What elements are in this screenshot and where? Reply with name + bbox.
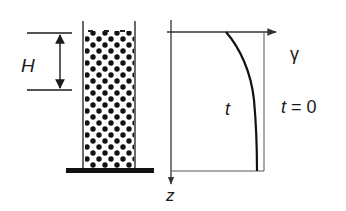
gamma-axis-label: γ xyxy=(290,44,299,64)
diagram-figure: H γ t = xyxy=(0,0,346,211)
height-label: H xyxy=(21,55,35,76)
t-zero-label: t = 0 xyxy=(281,97,317,117)
column-base-plate xyxy=(66,168,154,173)
time-t-profile-curve xyxy=(226,32,257,171)
profile-plot: γ t = 0 t z xyxy=(165,20,317,205)
t-zero-eq: = 0 xyxy=(286,97,317,117)
z-axis-label: z xyxy=(165,186,175,205)
height-marker: H xyxy=(21,33,72,90)
t-curve-label: t xyxy=(225,99,231,119)
granular-column xyxy=(66,21,154,173)
packed-spheres xyxy=(85,31,134,169)
